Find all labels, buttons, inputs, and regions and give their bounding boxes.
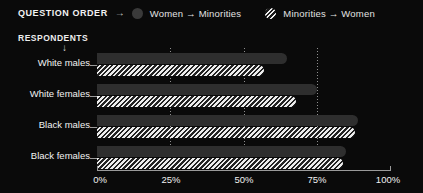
plot-area [97, 48, 390, 170]
x-axis-labels: 0% 25% 50% 75% 100% [0, 174, 423, 190]
legend-arrow-icon: → [115, 8, 125, 18]
x-axis-line [97, 170, 390, 171]
x-tick-label-0: 0% [93, 174, 107, 185]
y-axis-label-white-males: White males [38, 57, 90, 68]
x-axis-cap-left [97, 166, 98, 171]
solid-circle-swatch-icon [132, 8, 143, 19]
legend: QUESTION ORDER → Women → Minorities Mino… [18, 4, 423, 22]
x-tick-label-75: 75% [307, 174, 326, 185]
bar-black-males-minorities-first[interactable] [97, 127, 355, 138]
x-tick-label-50: 50% [234, 174, 253, 185]
y-axis-label-black-females: Black females [31, 150, 90, 161]
legend-item-women-to-minorities[interactable]: Women → Minorities [132, 8, 242, 19]
x-tick-label-100: 100% [376, 174, 400, 185]
legend-item-minorities-to-women[interactable]: Minorities → Women [265, 8, 375, 19]
bar-white-females-minorities-first[interactable] [97, 96, 296, 107]
y-tick-3 [90, 158, 97, 159]
y-axis-label-black-males: Black males [39, 119, 90, 130]
hatched-circle-swatch-icon [265, 8, 276, 19]
y-tick-2 [90, 127, 97, 128]
legend-item-label: Women → Minorities [150, 8, 242, 19]
bar-white-males-minorities-first[interactable] [97, 65, 264, 76]
respondents-caption: RESPONDENTS [18, 33, 88, 43]
bar-white-females-women-first[interactable] [97, 84, 317, 95]
y-tick-0 [90, 65, 97, 66]
bar-white-males-women-first[interactable] [97, 53, 287, 64]
bar-black-males-women-first[interactable] [97, 115, 358, 126]
down-arrow-icon: ↓ [62, 43, 67, 53]
x-axis-cap-right [390, 166, 391, 171]
bar-black-females-minorities-first[interactable] [97, 158, 343, 169]
y-tick-1 [90, 96, 97, 97]
x-tick-label-25: 25% [161, 174, 180, 185]
chart-root: QUESTION ORDER → Women → Minorities Mino… [0, 0, 423, 193]
bar-black-females-women-first[interactable] [97, 146, 346, 157]
legend-title: QUESTION ORDER [18, 8, 108, 18]
y-axis-label-white-females: White females [30, 88, 90, 99]
legend-item-label: Minorities → Women [283, 8, 375, 19]
